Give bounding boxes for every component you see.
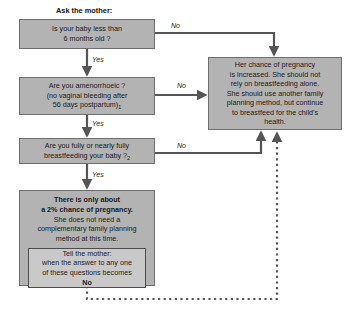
edge-label-no-2: No — [177, 82, 186, 89]
node-advice-line7: health. — [264, 117, 286, 126]
node-q1-line2: 6 months old ? — [63, 34, 110, 43]
node-advice-line4: She should use another family — [227, 89, 324, 98]
node-q1-line1: Is your baby less than — [52, 24, 122, 33]
node-q3-line2: breastfeeding your baby ? — [44, 151, 127, 160]
node-advice-text: Her chance of pregnancy is increased. Sh… — [212, 60, 338, 127]
node-advice-increased-risk: Her chance of pregnancy is increased. Sh… — [208, 57, 342, 130]
node-advice-line5: planning method, but continue — [227, 98, 323, 107]
node-result-bold1: There is only about — [54, 195, 120, 204]
node-tell-the-mother: Tell the mother: when the answer to any … — [28, 248, 146, 288]
node-question-baby-age: Is your baby less than 6 months old ? — [19, 19, 155, 49]
edge-label-no-3: No — [177, 142, 186, 149]
edge-label-yes-2: Yes — [92, 120, 104, 127]
page-title: Ask the mother: — [56, 6, 112, 15]
node-q3-footnote-marker: 2 — [127, 155, 130, 161]
edge-label-no-1: No — [171, 22, 180, 29]
node-question-breastfeeding: Are you fully or nearly fully breastfeed… — [19, 138, 155, 164]
node-result-line5: method at this time. — [56, 234, 119, 243]
node-q3-text: Are you fully or nearly fully breastfeed… — [23, 141, 151, 161]
node-q2-text: Are you amenorrhoeic ? (no vaginal bleed… — [23, 81, 151, 111]
tell-answer-no: No — [82, 278, 92, 287]
tell-line2: when the answer to any one — [42, 258, 132, 267]
node-result-line4: complementary family planning — [37, 224, 136, 233]
node-question-amenorrhoeic: Are you amenorrhoeic ? (no vaginal bleed… — [19, 77, 155, 115]
node-q2-footnote-marker: 1 — [118, 104, 121, 110]
node-result-bold2: a 2% chance of pregnancy. — [41, 205, 133, 214]
node-advice-line2: is increased. She should not — [230, 70, 320, 79]
edge-label-yes-1: Yes — [92, 56, 104, 63]
edge-no-q1-advice — [155, 33, 274, 55]
node-result-line3: She does not need a — [54, 215, 120, 224]
node-advice-line1: Her chance of pregnancy — [235, 60, 315, 69]
edge-label-yes-3: Yes — [92, 171, 104, 178]
node-tell-the-mother-text: Tell the mother: when the answer to any … — [42, 249, 132, 287]
node-result-text: There is only about a 2% chance of pregn… — [24, 195, 150, 244]
node-q1-text: Is your baby less than 6 months old ? — [23, 24, 151, 43]
node-q2-line3: 56 days postpartum) — [53, 100, 119, 109]
node-q2-line1: Are you amenorrhoeic ? — [49, 81, 126, 90]
node-q2-line2: (no vaginal bleeding after — [47, 91, 128, 100]
node-advice-line3: rely on breastfeeding alone. — [231, 79, 320, 88]
tell-line3: of these questions becomes — [42, 268, 132, 277]
node-q3-line1: Are you fully or nearly fully — [45, 141, 129, 150]
edge-no-q3-advice — [155, 132, 261, 153]
node-result-low-risk: There is only about a 2% chance of pregn… — [19, 190, 155, 286]
tell-line1: Tell the mother: — [62, 249, 111, 258]
node-advice-line6: to breastfeed for the child's — [232, 108, 318, 117]
lam-flowchart: Ask the mother: Is your baby less than 6… — [0, 0, 354, 326]
